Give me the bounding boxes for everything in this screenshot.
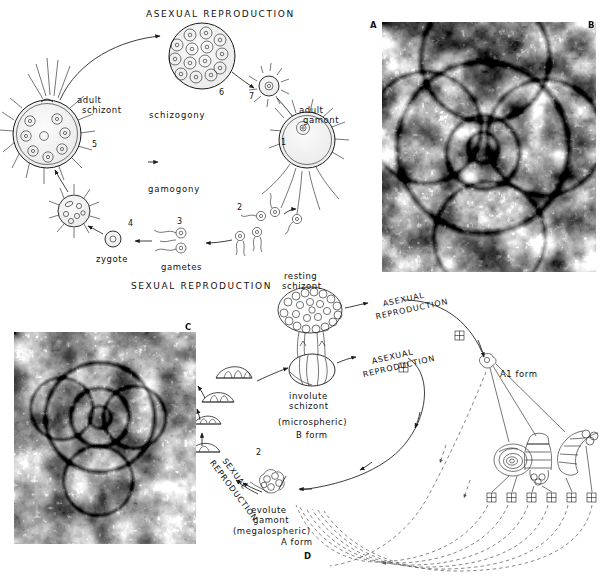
arrow-resting-to-asexual bbox=[345, 303, 368, 308]
figure-root: ASEXUAL REPRODUCTION SEXUAL REPRODUCTION… bbox=[0, 0, 604, 580]
stage-number-4: 4 bbox=[128, 219, 133, 229]
label-involute-line3: (microspheric) bbox=[278, 417, 347, 428]
stage-number-3: 3 bbox=[177, 217, 182, 227]
juvenile-schizont bbox=[49, 184, 100, 238]
label-adult-schizont-line2: schizont bbox=[82, 105, 122, 116]
stage-number-1: 1 bbox=[281, 138, 286, 148]
stage-3-gamete-fusion bbox=[154, 228, 186, 253]
arrow-gametes-to-fusion bbox=[206, 240, 232, 243]
label-zygote: zygote bbox=[96, 254, 128, 265]
panel-label-c: C bbox=[185, 322, 191, 333]
stage-5-adult-schizont bbox=[0, 58, 95, 184]
label-evolute-line4: A form bbox=[281, 537, 313, 548]
arrow-involute-to-asexual bbox=[337, 357, 356, 363]
label-involute-line4: B form bbox=[296, 430, 328, 441]
arrow-zygote-to-juvenile-schizont bbox=[88, 226, 103, 234]
label-schizogony: schizogony bbox=[149, 110, 206, 121]
d-resting-schizont bbox=[278, 287, 342, 358]
d-a1-form-node bbox=[479, 353, 496, 368]
d-form-arcuate bbox=[558, 430, 598, 475]
label-involute-line2: schizont bbox=[289, 401, 329, 412]
d-stage-number-2: 2 bbox=[256, 448, 261, 458]
heading-asexual-reproduction: ASEXUAL REPRODUCTION bbox=[146, 9, 295, 20]
arrow-schizont-to-juvenile bbox=[232, 72, 254, 88]
d-involute-schizont bbox=[289, 354, 335, 386]
label-resting-schizont-line2: schizont bbox=[282, 281, 322, 292]
stage-4-zygote bbox=[105, 231, 121, 247]
meiosis-symbol-top bbox=[455, 331, 464, 340]
arrow-schizont-to-schizogony bbox=[60, 36, 160, 100]
arrow-sexual-into-gamont bbox=[279, 476, 286, 489]
panel-label-a: A bbox=[370, 20, 377, 31]
stage-6-schizont-cells bbox=[169, 23, 235, 89]
arrow-growth-to-involute bbox=[257, 368, 288, 381]
stage-7-juvenile-gamont bbox=[249, 63, 289, 107]
heading-sexual-reproduction: SEXUAL REPRODUCTION bbox=[131, 281, 272, 292]
stage-number-6: 6 bbox=[219, 88, 224, 98]
label-evolute-line3: (megalospheric) bbox=[233, 526, 311, 537]
micrograph-panel-c bbox=[14, 332, 196, 544]
label-adult-gamont-line2: gamont bbox=[303, 115, 339, 126]
stage-2-gametes bbox=[235, 193, 301, 256]
dashed-return-arcs bbox=[296, 372, 592, 571]
label-gamogony: gamogony bbox=[148, 184, 200, 195]
meiosis-symbols-row bbox=[487, 493, 596, 502]
stage-number-2: 2 bbox=[237, 203, 242, 213]
panel-label-d: D bbox=[304, 551, 311, 562]
stage-number-5: 5 bbox=[92, 140, 97, 150]
d-form-uniserial bbox=[524, 433, 551, 485]
d-growth-stages bbox=[190, 367, 252, 452]
stage-number-7: 7 bbox=[249, 92, 254, 102]
panel-label-b: B bbox=[588, 20, 594, 31]
micrograph-panel-a bbox=[382, 22, 596, 272]
label-a1-form: A1 form bbox=[500, 369, 538, 380]
label-gametes: gametes bbox=[161, 262, 202, 273]
